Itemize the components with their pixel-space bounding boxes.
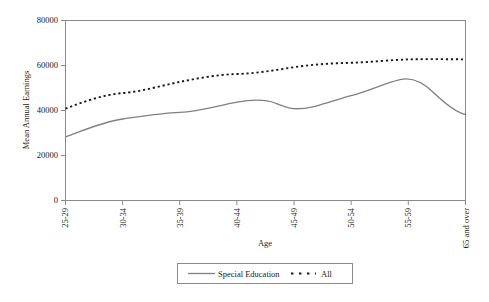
y-axis-ticks (61, 21, 66, 201)
y-axis-tick-labels: 80000 60000 40000 20000 0 (37, 15, 58, 205)
plot-frame (66, 21, 466, 201)
x-tick-label-35-39: 35-39 (175, 208, 185, 228)
y-axis-title: Mean Annual Earnings (21, 71, 31, 149)
x-tick-label-25-29: 25-29 (60, 208, 70, 228)
x-tick-label-45-49: 45-49 (289, 208, 299, 228)
y-tick-label-40000: 40000 (37, 105, 58, 115)
x-tick-label-65-and-over: 65 and over (461, 208, 471, 248)
y-tick-label-60000: 60000 (37, 60, 58, 70)
chart-figure: 80000 60000 40000 20000 0 25-29 30-34 35… (0, 0, 489, 302)
legend: Special Education All (178, 264, 353, 284)
x-tick-label-50-54: 50-54 (346, 207, 356, 228)
x-axis-ticks (66, 201, 466, 206)
x-tick-label-40-44: 40-44 (232, 207, 242, 228)
earnings-by-age-line-chart: 80000 60000 40000 20000 0 25-29 30-34 35… (0, 0, 489, 302)
y-tick-label-80000: 80000 (37, 15, 58, 25)
y-tick-label-0: 0 (54, 195, 58, 205)
legend-label-special-education: Special Education (218, 269, 280, 279)
y-tick-label-20000: 20000 (37, 150, 58, 160)
legend-label-all: All (321, 269, 333, 279)
x-axis-title: Age (258, 238, 272, 248)
x-tick-label-55-59: 55-59 (403, 208, 413, 228)
x-tick-label-30-34: 30-34 (118, 207, 128, 228)
series-special-education (66, 79, 466, 137)
